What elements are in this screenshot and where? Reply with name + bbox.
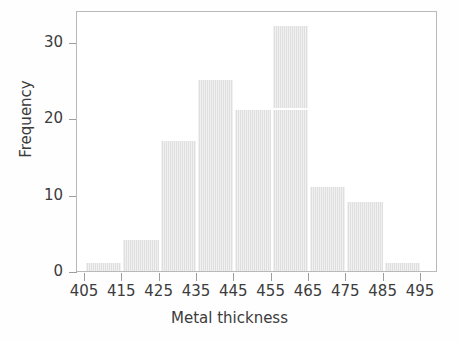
x-tick-mark — [196, 273, 197, 281]
histogram-bar — [123, 240, 158, 271]
histogram-bar — [310, 187, 345, 271]
histogram-bar — [86, 263, 121, 271]
x-tick-mark — [84, 273, 85, 281]
y-tick-label: 30 — [44, 35, 63, 50]
histogram-bar — [273, 26, 308, 271]
bars-layer — [77, 12, 436, 271]
x-tick-label: 495 — [398, 283, 442, 299]
y-axis-label: Frequency — [17, 49, 35, 189]
x-tick-mark — [271, 273, 272, 281]
histogram-bar — [161, 141, 196, 271]
plot-area — [76, 11, 437, 272]
scanline-artifact — [235, 108, 308, 110]
x-tick-mark — [420, 273, 421, 281]
x-tick-mark — [233, 273, 234, 281]
x-tick-mark — [383, 273, 384, 281]
y-tick-label: 10 — [44, 188, 63, 203]
histogram-bar — [347, 202, 382, 271]
histogram-bar — [385, 263, 420, 271]
x-tick-mark — [121, 273, 122, 281]
histogram-bar — [235, 110, 270, 271]
y-tick-label: 0 — [53, 264, 63, 279]
y-tick-label: 20 — [44, 111, 63, 126]
histogram-bar — [198, 80, 233, 271]
y-tick-mark — [69, 272, 77, 273]
x-tick-mark — [159, 273, 160, 281]
x-tick-mark — [345, 273, 346, 281]
x-tick-mark — [308, 273, 309, 281]
x-axis-label: Metal thickness — [0, 309, 459, 327]
histogram-figure: Frequency 0102030 4054154254354454554654… — [0, 0, 459, 341]
